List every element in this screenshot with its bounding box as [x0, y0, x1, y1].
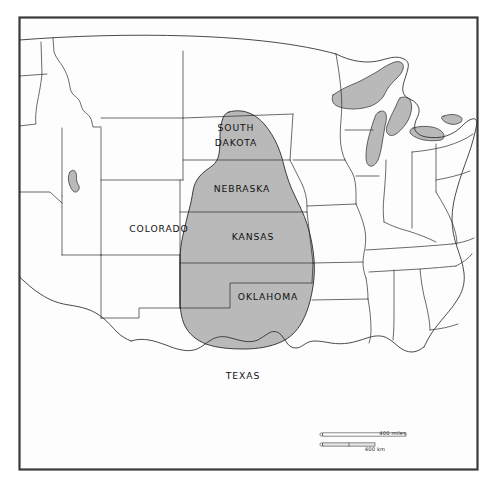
scale-bar-km-label: 400 km: [365, 446, 385, 452]
scale-bar-miles-label: 400 miles: [379, 430, 406, 436]
map-canvas: SOUTH DAKOTA NEBRASKA COLORADO KANSAS OK…: [0, 0, 499, 488]
label-south-dakota-line1: SOUTH: [218, 122, 255, 133]
label-south-dakota-line2: DAKOTA: [215, 137, 258, 148]
map-figure: SOUTH DAKOTA NEBRASKA COLORADO KANSAS OK…: [0, 0, 499, 488]
label-nebraska: NEBRASKA: [214, 183, 270, 194]
scale-bar-km-origin: [320, 443, 323, 446]
label-oklahoma: OKLAHOMA: [238, 291, 298, 302]
label-texas: TEXAS: [225, 370, 260, 381]
label-colorado: COLORADO: [129, 223, 188, 234]
scale-bar-miles-origin: [320, 433, 323, 436]
label-kansas: KANSAS: [232, 231, 275, 242]
